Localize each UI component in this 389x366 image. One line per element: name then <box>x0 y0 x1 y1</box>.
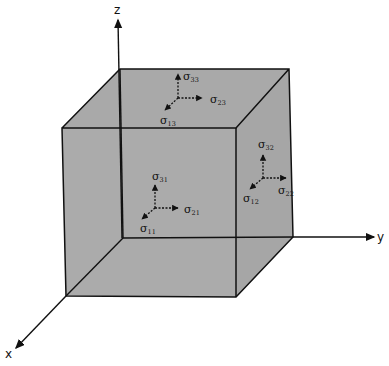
z-axis-label: z <box>114 3 120 17</box>
cube <box>62 69 293 297</box>
stress-cube-diagram: z y x σ33 σ23 σ13 σ31 σ21 σ11 σ32 σ22 σ1… <box>0 0 389 366</box>
x-axis <box>16 296 66 348</box>
y-axis-label: y <box>377 230 384 244</box>
x-axis-label: x <box>5 347 12 361</box>
